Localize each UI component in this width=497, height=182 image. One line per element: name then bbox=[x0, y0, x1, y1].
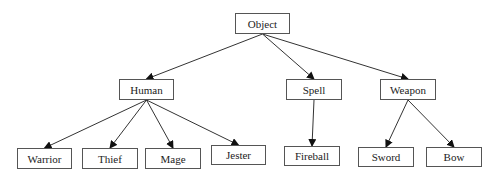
node-label: Spell bbox=[303, 84, 326, 96]
node-label: Sword bbox=[372, 151, 401, 163]
edge-object-to-human bbox=[147, 34, 263, 79]
node-mage: Mage bbox=[145, 148, 201, 169]
node-thief: Thief bbox=[82, 148, 138, 169]
node-label: Bow bbox=[444, 151, 465, 163]
edge-object-to-weapon bbox=[263, 34, 409, 79]
node-spell: Spell bbox=[286, 79, 342, 100]
node-label: Jester bbox=[226, 149, 251, 161]
node-label: Weapon bbox=[390, 84, 426, 96]
node-fireball: Fireball bbox=[284, 146, 340, 166]
node-jester: Jester bbox=[211, 145, 266, 165]
node-label: Object bbox=[248, 18, 277, 30]
edge-human-to-warrior bbox=[45, 100, 147, 148]
node-label: Thief bbox=[98, 153, 122, 165]
edge-spell-to-fireball bbox=[312, 100, 314, 146]
node-label: Warrior bbox=[28, 153, 62, 165]
edge-object-to-spell bbox=[263, 34, 315, 79]
node-label: Fireball bbox=[295, 150, 329, 162]
node-object: Object bbox=[235, 13, 290, 34]
node-weapon: Weapon bbox=[380, 79, 436, 100]
edge-human-to-mage bbox=[147, 100, 174, 148]
node-human: Human bbox=[119, 79, 174, 100]
edge-human-to-jester bbox=[147, 100, 239, 145]
edge-human-to-thief bbox=[110, 100, 147, 148]
node-label: Mage bbox=[160, 153, 185, 165]
node-warrior: Warrior bbox=[17, 148, 72, 169]
node-sword: Sword bbox=[358, 147, 414, 167]
node-bow: Bow bbox=[426, 147, 482, 167]
node-label: Human bbox=[130, 84, 162, 96]
edge-weapon-to-sword bbox=[386, 100, 408, 147]
edge-weapon-to-bow bbox=[408, 100, 454, 147]
